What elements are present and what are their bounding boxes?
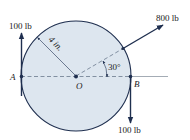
force-B-label: 100 lb [118,125,141,135]
free-body-diagram: 4 in. 30° 800 lb 100 lb 100 lb A O B [0,0,190,140]
point-O [74,75,78,79]
force-800-label: 800 lb [156,13,179,23]
point-A [20,75,24,79]
force-800-arrow [123,25,163,49]
point-B-label: B [134,79,140,89]
point-A-label: A [9,72,16,82]
force-800-application-point [121,47,124,50]
point-O-label: O [76,81,83,91]
angle-label: 30° [108,62,121,72]
force-A-label: 100 lb [9,21,32,31]
point-B [129,75,133,79]
